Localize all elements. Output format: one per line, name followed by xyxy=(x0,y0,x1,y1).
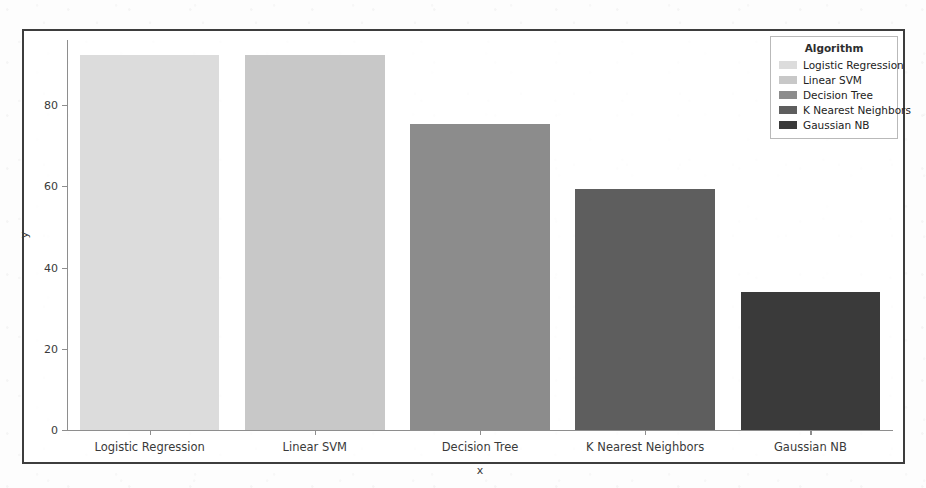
bar xyxy=(575,189,715,430)
bar xyxy=(410,124,550,430)
y-tick-label: 40 xyxy=(44,261,58,274)
x-axis-label: x xyxy=(477,464,484,477)
x-tick-mark xyxy=(150,430,151,435)
legend-color-swatch xyxy=(779,121,797,129)
x-tick-label: Linear SVM xyxy=(283,440,348,454)
legend-title: Algorithm xyxy=(779,42,889,54)
legend-color-swatch xyxy=(779,61,797,69)
legend-item[interactable]: K Nearest Neighbors xyxy=(779,102,889,117)
legend-item-label: Logistic Regression xyxy=(803,59,904,71)
x-tick-label: Logistic Regression xyxy=(94,440,204,454)
x-tick-mark xyxy=(315,430,316,435)
x-tick-label: Decision Tree xyxy=(442,440,519,454)
legend-item-label: K Nearest Neighbors xyxy=(803,104,911,116)
legend-item[interactable]: Logistic Regression xyxy=(779,57,889,72)
y-tick-label: 20 xyxy=(44,342,58,355)
legend-entries: Logistic RegressionLinear SVMDecision Tr… xyxy=(779,57,889,132)
x-tick-mark xyxy=(480,430,481,435)
legend-item[interactable]: Linear SVM xyxy=(779,72,889,87)
y-tick-label: 60 xyxy=(44,180,58,193)
bar xyxy=(741,292,881,430)
bar xyxy=(80,55,220,430)
y-axis-label: y xyxy=(18,232,31,239)
legend-item-label: Gaussian NB xyxy=(803,119,870,131)
legend-item[interactable]: Gaussian NB xyxy=(779,117,889,132)
legend-color-swatch xyxy=(779,91,797,99)
y-tick-label: 80 xyxy=(44,99,58,112)
x-tick-mark xyxy=(645,430,646,435)
legend-color-swatch xyxy=(779,76,797,84)
legend: Algorithm Logistic RegressionLinear SVMD… xyxy=(770,36,898,139)
x-tick-mark xyxy=(810,430,811,435)
y-tick-mark xyxy=(62,430,67,431)
bar xyxy=(245,55,385,430)
legend-color-swatch xyxy=(779,106,797,114)
legend-item[interactable]: Decision Tree xyxy=(779,87,889,102)
legend-item-label: Decision Tree xyxy=(803,89,873,101)
x-tick-label: Gaussian NB xyxy=(774,440,847,454)
y-tick-label: 0 xyxy=(51,424,58,437)
x-tick-label: K Nearest Neighbors xyxy=(586,440,704,454)
legend-item-label: Linear SVM xyxy=(803,74,862,86)
